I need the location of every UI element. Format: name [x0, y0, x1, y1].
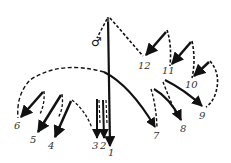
- arrow-6: [21, 92, 43, 117]
- dashed-path-11: [167, 30, 171, 66]
- label-12: 12: [138, 60, 151, 71]
- arrow-7: [104, 72, 155, 127]
- male-symbol: ♂: [91, 35, 102, 49]
- dashed-path-10: [192, 41, 194, 78]
- label-7: 7: [153, 130, 160, 141]
- dashed-path-12: [110, 18, 143, 56]
- arrow-1: [108, 17, 110, 146]
- label-4: 4: [47, 140, 54, 151]
- arrow-2: [103, 100, 104, 138]
- label-10: 10: [185, 79, 198, 90]
- dashed-path-2: [99, 100, 100, 124]
- dashed-path-1: [106, 100, 107, 124]
- dashed-path-9: [206, 61, 218, 107]
- label-1: 1: [108, 147, 114, 158]
- label-5: 5: [30, 134, 36, 145]
- arrow-5: [38, 95, 61, 132]
- label-3: 3: [92, 140, 98, 151]
- label-11: 11: [162, 65, 175, 76]
- trajectory-diagram: ♂ 1 2 3 4 5 6 7 8 9 10 11 12: [0, 0, 231, 163]
- label-9: 9: [199, 110, 206, 121]
- label-6: 6: [14, 120, 21, 131]
- label-8: 8: [180, 123, 186, 134]
- label-2: 2: [99, 140, 106, 151]
- arrow-10: [194, 62, 209, 76]
- arrow-12: [146, 32, 166, 55]
- arrow-11: [172, 42, 191, 64]
- dashed-path-3: [72, 100, 92, 128]
- arrow-4: [55, 101, 71, 137]
